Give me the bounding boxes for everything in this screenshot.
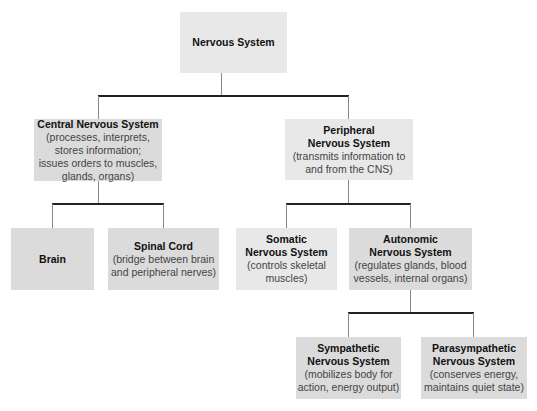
node-title: Autonomic Nervous System xyxy=(369,233,451,259)
node-title: Parasympathetic Nervous System xyxy=(432,342,516,368)
node-title: Sympathetic Nervous System xyxy=(307,342,389,368)
node-description: (mobilizes body for action, energy outpu… xyxy=(298,368,400,394)
connector-to-pns xyxy=(348,96,349,119)
node-title: Nervous System xyxy=(192,36,274,49)
node-brain: Brain xyxy=(11,228,94,290)
connector-autonomic-bar xyxy=(348,312,474,314)
node-title: Spinal Cord xyxy=(134,240,193,253)
node-parasympathetic-nervous-system: Parasympathetic Nervous System (conserve… xyxy=(421,337,527,399)
node-description: (processes, interprets, stores informati… xyxy=(39,131,157,183)
node-central-nervous-system: Central Nervous System (processes, inter… xyxy=(34,119,162,181)
node-spinal-cord: Spinal Cord (bridge between brain and pe… xyxy=(108,228,219,290)
node-sympathetic-nervous-system: Sympathetic Nervous System (mobilizes bo… xyxy=(296,337,401,399)
connector-to-somatic xyxy=(286,204,287,228)
connector-cns-bar xyxy=(52,203,164,205)
node-autonomic-nervous-system: Autonomic Nervous System (regulates glan… xyxy=(349,228,472,290)
connector-to-autonomic xyxy=(410,204,411,228)
connector-level1-bar xyxy=(98,95,349,97)
connector-pns-bar xyxy=(286,203,411,205)
connector-to-parasympathetic xyxy=(473,313,474,337)
node-description: (regulates glands, blood vessels, intern… xyxy=(354,259,468,285)
node-description: (controls skeletal muscles) xyxy=(247,259,326,285)
node-description: (transmits information to and from the C… xyxy=(293,150,406,176)
node-somatic-nervous-system: Somatic Nervous System (controls skeleta… xyxy=(236,228,337,290)
node-nervous-system: Nervous System xyxy=(180,12,287,73)
connector-to-spinal xyxy=(163,204,164,228)
connector-to-brain xyxy=(52,204,53,228)
connector-to-sympathetic xyxy=(348,313,349,337)
node-peripheral-nervous-system: Peripheral Nervous System (transmits inf… xyxy=(285,119,413,180)
node-title: Somatic Nervous System xyxy=(245,233,327,259)
connector-to-cns xyxy=(98,96,99,119)
node-description: (conserves energy, maintains quiet state… xyxy=(424,368,524,394)
node-title: Central Nervous System xyxy=(37,118,158,131)
node-description: (bridge between brain and peripheral ner… xyxy=(111,253,216,279)
node-title: Peripheral Nervous System xyxy=(308,124,390,150)
connector-pns-down xyxy=(348,180,349,204)
connector-cns-down xyxy=(98,181,99,204)
connector-autonomic-down xyxy=(410,290,411,313)
connector-root-down xyxy=(221,73,222,96)
node-title: Brain xyxy=(39,253,66,266)
